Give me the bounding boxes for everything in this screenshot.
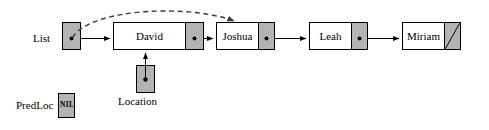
list-pointer-label: List: [33, 33, 50, 44]
node-miriam-label: Miriam: [403, 31, 445, 42]
diagram-vector-layer: [0, 0, 489, 130]
node-joshua-next-field: [259, 23, 275, 50]
node-david-next-field: [186, 23, 204, 50]
node-david-label: David: [114, 31, 186, 42]
linked-list-diagram: List NIL PredLoc Location David Joshua L…: [0, 0, 489, 130]
node-david-next-dot: [193, 37, 197, 41]
node-leah-next-dot: [358, 37, 362, 41]
list-pointer-box: [63, 23, 81, 50]
predloc-pointer-label: PredLoc: [16, 100, 53, 111]
node-joshua-label: Joshua: [217, 31, 259, 42]
location-pointer-label: Location: [118, 96, 157, 107]
node-leah-next-field: [352, 23, 368, 50]
predloc-value-nil: NIL: [60, 101, 74, 109]
node-leah-label: Leah: [310, 31, 352, 42]
node-joshua-next-dot: [265, 37, 269, 41]
